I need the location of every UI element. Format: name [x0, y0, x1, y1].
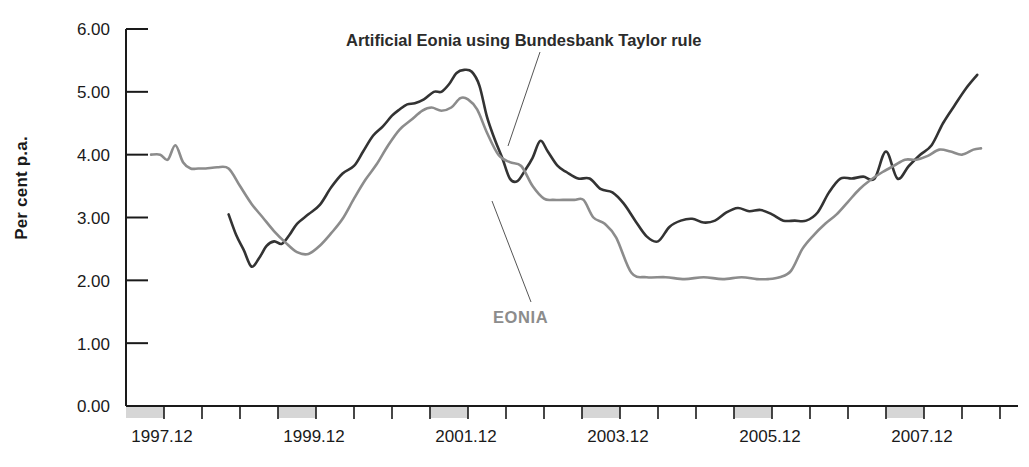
axis-band-2003.12: [582, 407, 620, 418]
annotation-leader-lines: [492, 52, 540, 302]
axis-band-2005.12: [734, 407, 772, 418]
x-axis-shaded-bands: [126, 407, 924, 418]
chart-tick-marks: [126, 29, 1000, 419]
axis-band-2001.12: [430, 407, 468, 418]
chart-figure: Per cent p.a. 6.00 5.00 4.00 3.00 2.00 1…: [0, 0, 1029, 467]
series-line-eonia: [151, 97, 981, 279]
axis-band-1999.12: [278, 407, 316, 418]
chart-plot-area: [0, 0, 1029, 467]
chart-axes: [126, 29, 1018, 406]
chart-series-lines: [151, 70, 981, 280]
axis-band-2007.12: [886, 407, 924, 418]
series-line-artificial-eonia-using-bundesbank-taylor-rule: [229, 70, 978, 267]
leader-line-artificial-eonia-label: [508, 52, 540, 146]
leader-line-eonia-label: [492, 201, 531, 302]
axis-band-1997.12: [126, 407, 164, 418]
